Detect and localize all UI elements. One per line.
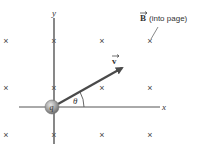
magnetic-field-diagram: × × × × × × × × × × × × y x θ v q B (int… (0, 0, 207, 144)
field-label: B (into page) (140, 12, 188, 24)
field-marker-icon: × (3, 36, 8, 46)
velocity-arrow (58, 68, 122, 104)
field-marker-icon: × (147, 83, 152, 93)
angle-arc (80, 92, 84, 107)
svg-text:(into page): (into page) (149, 14, 188, 23)
field-marker-icon: × (99, 83, 104, 93)
y-axis-label: y (51, 8, 56, 18)
field-marker-icon: × (99, 130, 104, 140)
field-leader-line (151, 27, 158, 39)
charge-label: q (50, 103, 54, 112)
field-marker-icon: × (3, 83, 8, 93)
svg-text:v: v (112, 56, 117, 66)
field-marker-icon: × (99, 36, 104, 46)
angle-label: θ (73, 96, 78, 106)
velocity-label: v (112, 55, 119, 67)
field-marker-icon: × (3, 130, 8, 140)
field-marker-icon: × (147, 130, 152, 140)
x-axis-label: x (161, 102, 166, 112)
field-markers: × × × × × × × × × × × × (3, 36, 152, 140)
